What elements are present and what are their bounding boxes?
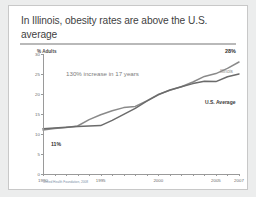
x-axis-tick-mark — [158, 174, 159, 176]
x-axis-tick-mark — [101, 174, 102, 176]
x-axis-tick-mark — [147, 174, 148, 176]
x-axis-tick-mark — [124, 174, 125, 176]
y-axis-tick-label: 15 — [35, 112, 40, 117]
series-label-us-average: U.S. Average — [205, 99, 235, 105]
title-divider — [20, 43, 236, 45]
x-axis-tick-mark — [78, 174, 79, 176]
x-axis-tick-mark — [239, 174, 240, 176]
x-axis-tick-label: 2000 — [153, 178, 163, 183]
x-axis-tick-mark — [170, 174, 171, 176]
chart-annotation-growth: 130% increase in 17 years — [66, 70, 139, 77]
x-axis-tick-label: 1995 — [96, 178, 106, 183]
y-axis-tick-mark — [41, 74, 43, 75]
x-axis-tick-mark — [66, 174, 67, 176]
y-axis-tick-mark — [41, 54, 43, 55]
y-axis-tick-mark — [41, 134, 43, 135]
y-axis-tick-mark — [41, 114, 43, 115]
x-axis-tick-mark — [135, 174, 136, 176]
x-axis-tick-label: 2005 — [211, 178, 221, 183]
y-axis-line — [43, 54, 44, 174]
y-axis-tick-label: 5 — [38, 152, 40, 157]
x-axis-tick-mark — [227, 174, 228, 176]
y-axis-tick-label: 0 — [38, 172, 40, 177]
page-title: In Illinois, obesity rates are above the… — [21, 14, 226, 41]
x-axis-tick-mark — [216, 174, 217, 176]
slide-panel: In Illinois, obesity rates are above the… — [8, 5, 248, 190]
x-axis-tick-mark — [89, 174, 90, 176]
y-axis-tick-label: 25 — [35, 72, 40, 77]
y-axis-tick-mark — [41, 154, 43, 155]
y-axis-tick-label: 30 — [35, 52, 40, 57]
x-axis-tick-mark — [55, 174, 56, 176]
x-axis-tick-mark — [112, 174, 113, 176]
x-axis-tick-mark — [204, 174, 205, 176]
series-label-illinois: Illinois — [220, 69, 233, 74]
x-axis-tick-mark — [181, 174, 182, 176]
x-axis-tick-mark — [193, 174, 194, 176]
x-axis-tick-label: 2007 — [234, 178, 244, 183]
data-label-end: 28% — [225, 48, 236, 54]
source-footnote: United Health Foundation, 2008 — [43, 180, 88, 184]
data-label-start: 11% — [51, 141, 61, 147]
x-axis-tick-mark — [43, 174, 44, 176]
y-axis-tick-mark — [41, 94, 43, 95]
y-axis-tick-label: 10 — [35, 132, 40, 137]
y-axis-tick-label: 20 — [35, 92, 40, 97]
x-axis-line — [43, 174, 239, 175]
